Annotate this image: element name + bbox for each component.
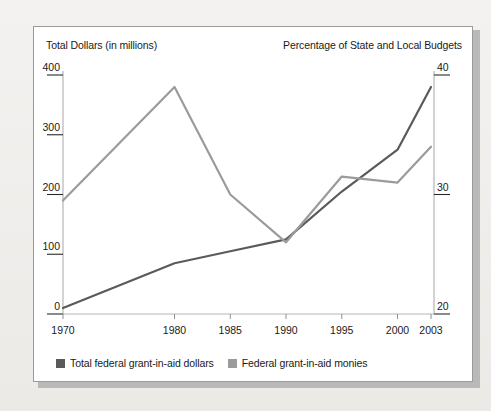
right-tick-label: 20 <box>437 300 449 312</box>
right-tick-label: 30 <box>437 181 449 193</box>
right-tick-label: 40 <box>437 61 449 73</box>
x-tick-label: 2000 <box>386 324 409 336</box>
x-tick-label: 1995 <box>330 324 353 336</box>
plot-area: 0100200300400203040197019801985199019952… <box>34 27 472 381</box>
legend-item: Federal grant-in-aid monies <box>228 357 368 369</box>
series-line-left <box>63 87 431 308</box>
left-tick-label: 300 <box>42 121 60 133</box>
series-line-right <box>63 87 431 242</box>
x-tick-label: 1990 <box>274 324 297 336</box>
left-tick-label: 0 <box>54 300 60 312</box>
x-tick-label: 1970 <box>51 324 74 336</box>
left-tick-label: 100 <box>42 240 60 252</box>
chart-figure: Total Dollars (in millions) Percentage o… <box>0 0 491 411</box>
legend-swatch-icon <box>56 359 65 368</box>
left-tick-label: 400 <box>42 61 60 73</box>
legend-label: Total federal grant-in-aid dollars <box>70 357 214 369</box>
chart-panel: Total Dollars (in millions) Percentage o… <box>33 26 473 382</box>
legend-swatch-icon <box>228 359 237 368</box>
x-tick-label: 1980 <box>163 324 186 336</box>
legend-item: Total federal grant-in-aid dollars <box>56 357 214 369</box>
x-tick-label: 2003 <box>419 324 442 336</box>
chart-legend: Total federal grant-in-aid dollarsFedera… <box>56 357 367 369</box>
legend-label: Federal grant-in-aid monies <box>242 357 368 369</box>
left-tick-label: 200 <box>42 181 60 193</box>
x-tick-label: 1985 <box>219 324 242 336</box>
